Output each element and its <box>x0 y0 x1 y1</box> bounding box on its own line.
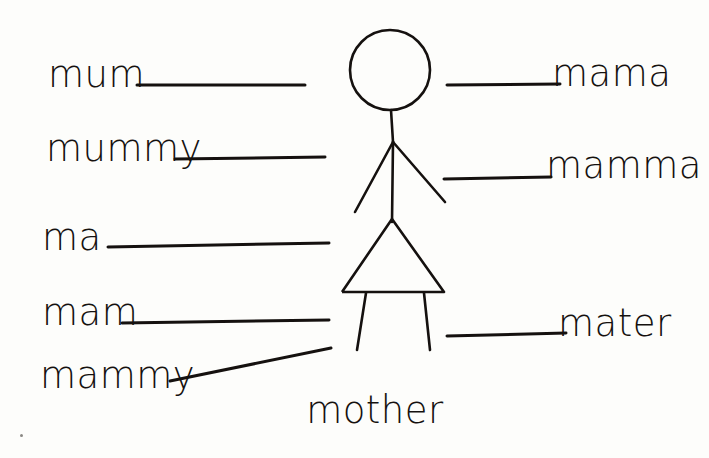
figure-arm-left <box>355 142 393 212</box>
label-mamma: mamma <box>546 145 702 184</box>
figure-leg-right <box>424 293 430 350</box>
figure-arm-right <box>393 142 445 202</box>
answer-line-mater <box>447 333 566 336</box>
figure-skirt <box>342 219 444 292</box>
label-mum: mum <box>48 54 145 93</box>
label-mummy: mummy <box>46 128 202 167</box>
answer-line-ma <box>108 243 329 247</box>
label-ma: ma <box>42 217 102 256</box>
answer-line-mamma <box>444 177 551 179</box>
worksheet-canvas: mummummymamammammymamamammamater mother <box>0 0 709 458</box>
figure-leg-left <box>357 293 366 350</box>
label-mammy: mammy <box>40 355 195 394</box>
label-mater: mater <box>558 303 672 342</box>
figure-torso <box>392 142 393 222</box>
figure-neck <box>391 110 393 142</box>
label-mother: mother <box>306 390 444 429</box>
scan-speck <box>20 434 23 437</box>
label-mam: mam <box>42 292 138 331</box>
label-mama: mama <box>552 53 671 92</box>
answer-line-mam <box>122 320 329 323</box>
figure-head <box>350 30 430 110</box>
answer-line-mama <box>447 84 560 85</box>
